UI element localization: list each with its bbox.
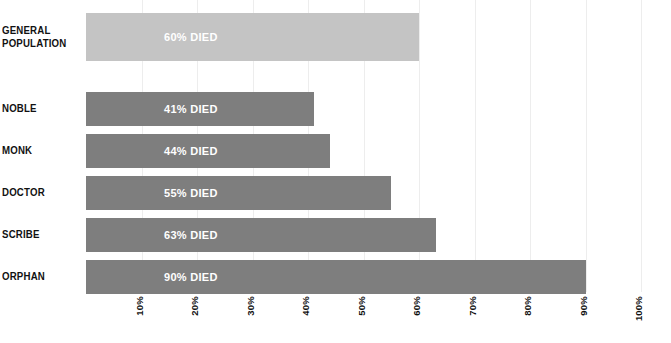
x-tick-label-100%: 100% bbox=[633, 296, 644, 321]
category-label-2: NOBLE bbox=[2, 102, 79, 115]
bar-chart: GENERALPOPULATION60% DIEDNOBLE41% DIEDMO… bbox=[0, 0, 671, 343]
category-label-4: DOCTOR bbox=[2, 186, 79, 199]
category-label-5: SCRIBE bbox=[2, 228, 79, 241]
x-tick-label-40%: 40% bbox=[300, 296, 311, 316]
gridline-90% bbox=[586, 0, 587, 292]
category-label-line-1: GENERAL bbox=[2, 24, 74, 37]
category-label-line-2: POPULATION bbox=[2, 37, 74, 50]
x-tick-label-30%: 30% bbox=[244, 296, 255, 316]
x-axis: 10%20%30%40%50%60%70%80%90%100% bbox=[86, 292, 641, 343]
bar-value-label-3: 44% DIED bbox=[164, 145, 218, 157]
category-label-1: GENERALPOPULATION bbox=[2, 24, 79, 50]
bar-6: 90% DIED bbox=[86, 260, 586, 294]
bar-value-label-2: 41% DIED bbox=[164, 103, 218, 115]
x-tick-label-20%: 20% bbox=[189, 296, 200, 316]
bar-5: 63% DIED bbox=[86, 218, 436, 252]
gridline-80% bbox=[530, 0, 531, 292]
bar-value-label-5: 63% DIED bbox=[164, 229, 218, 241]
category-label-6: ORPHAN bbox=[2, 270, 79, 283]
x-tick-label-10%: 10% bbox=[133, 296, 144, 316]
plot-area: GENERALPOPULATION60% DIEDNOBLE41% DIEDMO… bbox=[86, 0, 641, 292]
bar-value-label-1: 60% DIED bbox=[164, 31, 218, 43]
x-tick-label-90%: 90% bbox=[577, 296, 588, 316]
bar-value-label-6: 90% DIED bbox=[164, 271, 218, 283]
category-label-3: MONK bbox=[2, 144, 79, 157]
bar-value-label-4: 55% DIED bbox=[164, 187, 218, 199]
x-tick-label-50%: 50% bbox=[355, 296, 366, 316]
x-tick-label-70%: 70% bbox=[466, 296, 477, 316]
x-tick-label-60%: 60% bbox=[411, 296, 422, 316]
x-tick-label-80%: 80% bbox=[522, 296, 533, 316]
bar-1: 60% DIED bbox=[86, 13, 419, 61]
bar-2: 41% DIED bbox=[86, 92, 314, 126]
gridline-70% bbox=[475, 0, 476, 292]
bar-3: 44% DIED bbox=[86, 134, 330, 168]
gridline-100% bbox=[641, 0, 642, 292]
bar-4: 55% DIED bbox=[86, 176, 391, 210]
